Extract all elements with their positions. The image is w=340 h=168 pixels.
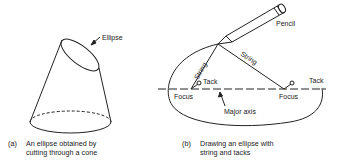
caption-b-tag: (b) [182, 140, 200, 149]
tack-left-icon [197, 81, 201, 85]
pencil-label: Pencil [276, 20, 296, 27]
cone-base-front [30, 122, 111, 133]
tack-right-pin [284, 84, 291, 89]
caption-a-line2: cutting through a cone [8, 149, 97, 158]
caption-b-line2: string and tacks [182, 149, 274, 158]
tack-right-label: Tack [309, 77, 324, 84]
ellipse-label: Ellipse [102, 34, 123, 42]
caption-a-tag: (a) [8, 140, 26, 149]
cone-base-back [30, 111, 111, 122]
cone-right-side [99, 68, 111, 122]
tack-left-label: Tack [203, 78, 218, 85]
caption-b: (b)Drawing an ellipse with string and ta… [182, 140, 274, 157]
focus-right-label: Focus [279, 93, 299, 100]
major-axis-label: Major axis [224, 108, 256, 116]
caption-b-line1: Drawing an ellipse with [200, 139, 274, 148]
cone-left-side [30, 40, 62, 122]
caption-a-line1: An ellipse obtained by [26, 139, 96, 148]
focus-left-label: Focus [174, 93, 194, 100]
string-right [218, 44, 284, 89]
arrow-head-icon [219, 92, 223, 97]
caption-a: (a)An ellipse obtained by cutting throug… [8, 140, 97, 157]
tack-right-icon [290, 81, 294, 85]
cone-figure [30, 34, 111, 133]
